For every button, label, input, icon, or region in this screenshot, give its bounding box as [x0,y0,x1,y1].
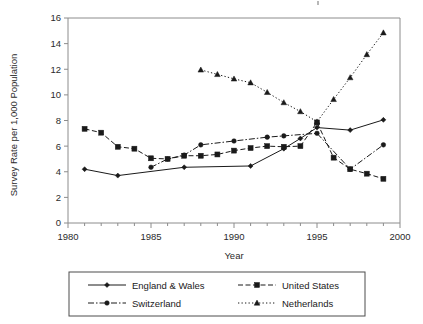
x-tick-label: 1985 [140,231,161,242]
x-tick-label: 2000 [389,231,410,242]
data-point [165,157,170,162]
y-axis-title: Survey Rate per 1,000 Population [8,54,19,197]
data-point [248,146,253,151]
data-point [281,144,286,149]
data-point [215,152,220,157]
data-point [149,156,154,161]
legend-marker-square-icon [255,283,260,288]
data-point [199,143,204,148]
data-point [82,126,87,131]
survey-rate-line-chart: 0246810121416 19801985199019952000 Surve… [0,0,423,324]
y-tick-label: 0 [56,217,61,228]
data-point [182,153,187,158]
x-tick-label: 1995 [306,231,327,242]
data-point [99,130,104,135]
legend-label: United States [282,280,339,291]
legend-marker-circle-icon [105,301,110,306]
y-tick-label: 4 [56,166,61,177]
data-point [149,165,154,170]
y-tick-label: 16 [50,12,61,23]
data-point [364,171,369,176]
data-point [232,148,237,153]
y-tick-label: 6 [56,141,61,152]
legend-label: Netherlands [282,298,333,309]
y-tick-label: 8 [56,115,61,126]
data-point [381,143,386,148]
data-point [298,144,303,149]
data-point [315,131,320,136]
data-point [381,176,386,181]
scan-artifact [317,1,319,5]
legend-border [69,272,365,316]
legend-label: England & Wales [132,280,205,291]
data-point [132,146,137,151]
data-point [265,135,270,140]
chart-legend: England & WalesUnited StatesSwitzerlandN… [69,272,365,316]
data-point [232,139,237,144]
chart-container: 0246810121416 19801985199019952000 Surve… [0,0,423,324]
x-tick-label: 1990 [223,231,244,242]
x-tick-label: 1980 [57,231,78,242]
data-point [115,144,120,149]
y-tick-label: 2 [56,192,61,203]
y-tick-label: 14 [50,38,61,49]
data-point [282,134,287,139]
x-axis-title: Year [224,250,243,261]
legend-label: Switzerland [132,298,181,309]
data-point [348,167,353,172]
y-tick-label: 12 [50,64,61,75]
data-point [198,153,203,158]
data-point [331,155,336,160]
y-tick-label: 10 [50,89,61,100]
data-point [265,144,270,149]
